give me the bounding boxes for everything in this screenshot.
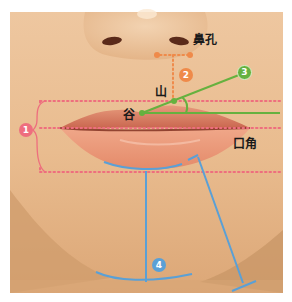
- label-peak: 山: [155, 86, 167, 98]
- label-valley: 谷: [123, 109, 135, 121]
- label-mouth-corner: 口角: [233, 138, 257, 150]
- label-nostril: 鼻孔: [193, 34, 217, 46]
- marker-1-badge: 1: [19, 123, 33, 137]
- marker-4-badge: 4: [152, 258, 166, 272]
- face-illustration: [0, 0, 292, 302]
- lip-proportion-diagram: 鼻孔 山 谷 口角 1 2 3 4: [0, 0, 292, 302]
- marker-2-badge: 2: [179, 68, 193, 82]
- marker-3-badge: 3: [237, 65, 252, 80]
